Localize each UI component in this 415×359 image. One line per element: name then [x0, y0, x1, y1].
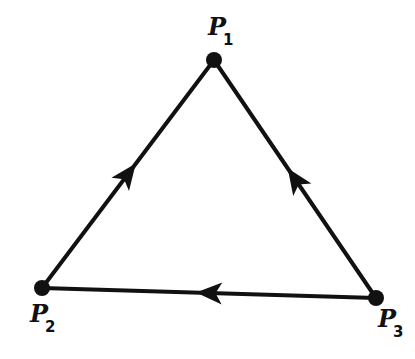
label-subscript-p1: 1 — [223, 31, 233, 49]
arrowhead-icon — [111, 164, 135, 191]
nodes — [34, 52, 384, 306]
label-subscript-p3: 3 — [393, 323, 403, 341]
arrowhead-icon — [288, 168, 312, 196]
edges — [42, 60, 376, 304]
node-p1 — [206, 52, 222, 68]
triangle-diagram: P1P2P3 — [0, 0, 415, 359]
label-subscript-p2: 2 — [45, 318, 55, 336]
node-p2 — [34, 280, 50, 296]
